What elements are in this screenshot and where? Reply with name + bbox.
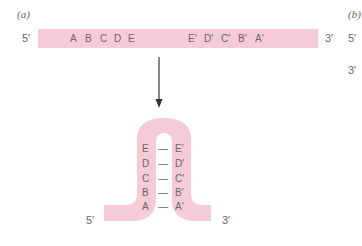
- pair-left-E: E: [142, 143, 149, 154]
- pair-left-D: D: [142, 158, 149, 169]
- down-arrow-icon: [156, 57, 163, 108]
- pair-bond-A: —: [158, 201, 168, 212]
- pair-bond-C: —: [158, 173, 168, 184]
- pair-left-C: C: [142, 173, 149, 184]
- pair-right-D-prime: D′: [175, 158, 184, 169]
- pair-right-B-prime: B′: [175, 187, 184, 198]
- hairpin-3prime-label: 3′: [222, 214, 230, 226]
- pair-left-B: B: [142, 187, 149, 198]
- pair-right-A-prime: A′: [175, 201, 184, 212]
- pair-bond-B: —: [158, 187, 168, 198]
- pair-bond-D: —: [158, 158, 168, 169]
- hairpin-5prime-label: 5′: [86, 214, 94, 226]
- pair-bond-E: —: [158, 143, 168, 154]
- pair-right-C-prime: C′: [175, 173, 184, 184]
- pair-left-A: A: [142, 201, 149, 212]
- pair-right-E-prime: E′: [175, 143, 184, 154]
